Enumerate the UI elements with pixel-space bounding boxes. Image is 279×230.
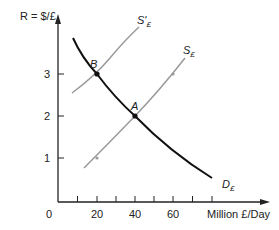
y-tick-label-3: 3 (44, 68, 50, 80)
y-axis-label: R = $/£ (20, 10, 56, 22)
point-a-label: A (130, 100, 138, 112)
x-tick-label-60: 60 (167, 208, 179, 220)
x-tick-label-20: 20 (91, 208, 103, 220)
exchange-rate-chart: 0 20 40 60 Million £/Day 3 2 1 R = $/£ B… (0, 0, 279, 230)
x-axis-arrow-icon (260, 199, 270, 205)
x-ticks (78, 196, 213, 202)
supply-shifted-label: S'£ (137, 14, 151, 29)
supply-label: S£ (183, 44, 195, 59)
demand-label: D£ (222, 178, 235, 193)
x-tick-label-40: 40 (129, 208, 141, 220)
supply-point-60-3 (171, 72, 174, 75)
point-a-marker (132, 113, 137, 118)
y-tick-label-2: 2 (44, 110, 50, 122)
y-tick-label-1: 1 (44, 152, 50, 164)
point-b-marker (94, 71, 99, 76)
y-axis-arrow-icon (55, 14, 61, 24)
supply-point-20-1 (95, 156, 98, 159)
x-tick-label-0: 0 (46, 208, 52, 220)
point-b-label: B (90, 58, 97, 70)
supply-curve-shifted (72, 27, 139, 93)
y-ticks (58, 74, 64, 158)
x-axis-label: Million £/Day (207, 208, 270, 220)
